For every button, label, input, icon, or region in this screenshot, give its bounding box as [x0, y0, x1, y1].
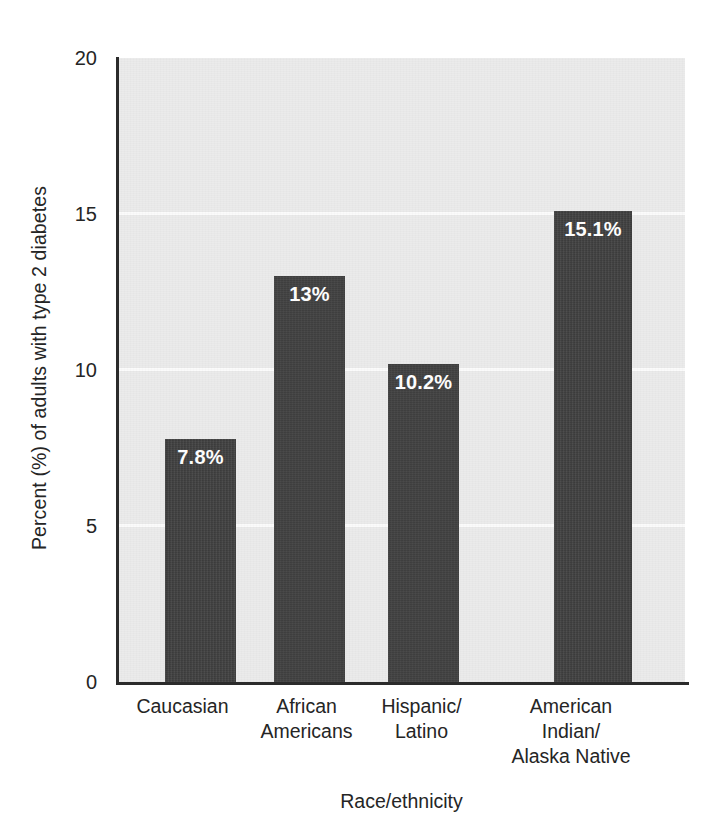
x-axis-title: Race/ethnicity	[118, 790, 685, 813]
bar-value-label: 10.2%	[388, 371, 459, 394]
y-axis-line	[116, 57, 119, 684]
bar-american-indian-alaska-native[interactable]: 15.1%	[554, 211, 632, 682]
bar-value-label: 7.8%	[165, 446, 236, 469]
bar-hispanic-latino[interactable]: 10.2%	[388, 364, 459, 682]
y-tick-label-0: 0	[0, 671, 107, 694]
category-label-american-indian-alaska-native: American Indian/ Alaska Native	[476, 694, 666, 769]
bar-caucasian[interactable]: 7.8%	[165, 439, 236, 682]
y-tick-label-5: 5	[0, 515, 107, 538]
bar-value-label: 13%	[274, 283, 345, 306]
bar-african-americans[interactable]: 13%	[274, 276, 345, 682]
plot-area: 7.8% 13% 10.2% 15.1%	[118, 58, 685, 682]
x-axis-line	[116, 682, 689, 685]
y-axis-tick-labels: 20 15 10 5 0	[0, 0, 107, 826]
y-tick-label-20: 20	[0, 47, 107, 70]
bar-chart-figure: Percent (%) of adults with type 2 diabet…	[0, 0, 716, 826]
y-tick-label-10: 10	[0, 359, 107, 382]
bar-value-label: 15.1%	[554, 218, 632, 241]
y-tick-label-15: 15	[0, 203, 107, 226]
